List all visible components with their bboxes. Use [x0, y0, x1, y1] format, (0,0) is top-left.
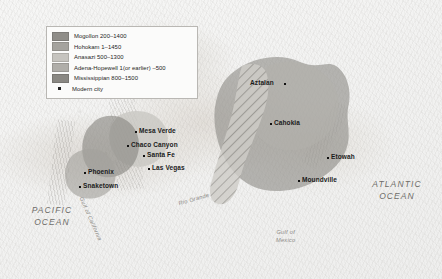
modern-city-marker-icon	[52, 87, 67, 90]
legend-item-hohokam: Hohokam 1–1450	[52, 42, 192, 53]
city-dot-cahokia	[270, 123, 272, 125]
legend-item-modern-city: Modern city	[52, 84, 192, 95]
city-dot-phoenix	[84, 172, 86, 174]
legend-label-anasazi: Anasazi 500–1300	[74, 54, 124, 60]
legend-swatch-anasazi	[52, 53, 69, 62]
legend-item-mogollon: Mogollon 200–1400	[52, 31, 192, 42]
city-dot-aztalan	[284, 83, 286, 85]
city-dot-snaketown	[79, 186, 81, 188]
city-dot-mesa-verde	[135, 131, 137, 133]
legend-label-modern-city: Modern city	[72, 86, 103, 92]
legend-swatch-adena-hopewell	[52, 63, 69, 72]
map-canvas: PACIFIC OCEAN ATLANTIC OCEAN Gulf of Mex…	[0, 0, 442, 279]
map-legend: Mogollon 200–1400 Hohokam 1–1450 Anasazi…	[46, 26, 198, 99]
legend-swatch-hohokam	[52, 42, 69, 51]
city-dot-las-vegas	[148, 168, 150, 170]
legend-label-mississippian: Mississippian 800–1500	[74, 75, 138, 81]
legend-label-hohokam: Hohokam 1–1450	[74, 44, 121, 50]
legend-label-mogollon: Mogollon 200–1400	[74, 33, 127, 39]
city-dot-chaco-canyon	[127, 145, 129, 147]
city-dot-etowah	[327, 157, 329, 159]
legend-item-mississippian: Mississippian 800–1500	[52, 73, 192, 84]
legend-label-adena-hopewell: Adena-Hopewell 1(or earlier) –500	[74, 65, 166, 71]
legend-swatch-mississippian	[52, 74, 69, 83]
city-dot-santa-fe	[143, 155, 145, 157]
city-dot-moundville	[298, 180, 300, 182]
legend-swatch-mogollon	[52, 32, 69, 41]
region-hohokam	[65, 149, 116, 199]
legend-item-adena-hopewell: Adena-Hopewell 1(or earlier) –500	[52, 63, 192, 74]
legend-item-anasazi: Anasazi 500–1300	[52, 52, 192, 63]
